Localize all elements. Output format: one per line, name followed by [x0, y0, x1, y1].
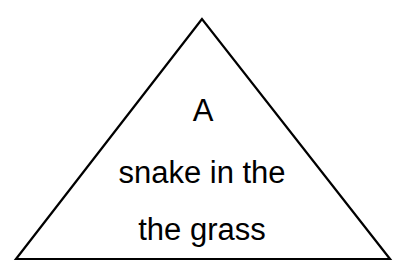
- triangle-diagram: A snake in the the grass: [0, 0, 404, 277]
- label-line-3: the grass: [138, 212, 266, 247]
- label-line-1: A: [193, 93, 214, 128]
- label-line-2: snake in the: [118, 155, 285, 190]
